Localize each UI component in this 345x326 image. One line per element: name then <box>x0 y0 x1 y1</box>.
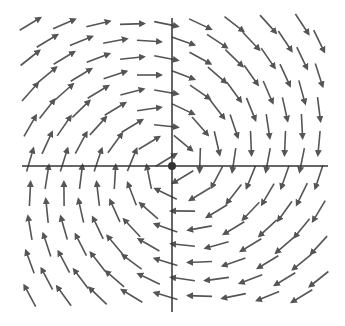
field-arrow <box>295 14 308 34</box>
field-arrow <box>139 239 160 251</box>
field-arrow <box>88 86 109 98</box>
field-arrow <box>139 137 160 149</box>
field-arrow <box>155 189 177 200</box>
field-arrow <box>240 275 262 284</box>
field-arrow <box>211 166 222 187</box>
field-arrow <box>282 97 287 120</box>
field-arrow <box>103 39 127 43</box>
field-arrow <box>225 17 244 32</box>
field-arrow <box>188 226 212 230</box>
field-arrow <box>205 242 228 248</box>
field-arrow <box>222 294 246 299</box>
field-arrow <box>43 234 51 257</box>
field-arrow <box>27 149 34 172</box>
field-arrow <box>120 57 144 60</box>
field-arrow <box>104 71 127 78</box>
field-arrow <box>38 67 56 82</box>
field-arrow <box>281 166 289 189</box>
field-arrow <box>258 256 279 268</box>
field-arrow <box>188 262 212 263</box>
field-arrow <box>310 272 329 287</box>
field-arrow <box>292 290 313 302</box>
field-arrow <box>89 288 106 305</box>
field-arrow <box>54 52 75 64</box>
field-arrow <box>55 84 73 100</box>
field-arrow <box>262 184 274 205</box>
field-arrow <box>75 132 86 153</box>
field-arrow <box>147 165 152 189</box>
field-arrow <box>91 253 106 272</box>
field-arrow <box>127 149 136 171</box>
field-arrow <box>230 115 238 138</box>
field-arrow <box>154 56 178 61</box>
field-arrow <box>29 182 30 206</box>
field-arrow <box>122 290 143 302</box>
field-arrow <box>41 268 52 289</box>
field-arrow <box>311 236 327 254</box>
field-arrow <box>200 148 201 172</box>
field-arrow <box>22 83 38 101</box>
field-arrow <box>313 201 325 222</box>
field-arrow <box>108 133 122 152</box>
field-arrow <box>243 32 260 49</box>
field-arrow <box>294 219 309 238</box>
field-arrow <box>260 15 276 33</box>
field-arrow <box>76 234 87 255</box>
field-arrow <box>70 37 92 46</box>
field-arrow <box>93 217 103 239</box>
field-arrow <box>261 48 275 68</box>
field-arrow <box>300 148 305 172</box>
field-arrow <box>21 51 40 66</box>
field-arrow <box>40 100 55 119</box>
field-arrow <box>61 217 68 240</box>
field-arrow <box>189 19 211 29</box>
field-arrow <box>243 202 260 219</box>
field-arrow <box>155 258 178 265</box>
field-arrow <box>124 219 140 237</box>
field-arrow <box>278 201 292 220</box>
field-arrow <box>42 132 52 154</box>
field-arrow <box>285 131 286 155</box>
field-arrow <box>172 104 194 114</box>
field-arrow <box>154 125 178 127</box>
field-arrow <box>110 200 120 222</box>
field-arrow <box>232 148 236 172</box>
field-arrow <box>122 120 143 132</box>
field-arrow <box>137 40 161 42</box>
field-arrow <box>122 255 141 269</box>
field-arrow <box>224 222 245 234</box>
field-arrow <box>128 183 137 205</box>
field-arrow <box>301 114 302 138</box>
field-arrow <box>172 37 195 45</box>
field-arrow <box>37 35 58 47</box>
field-arrow <box>227 185 242 204</box>
field-arrow <box>266 148 270 172</box>
field-arrow <box>172 71 194 80</box>
field-arrow <box>275 273 296 285</box>
field-arrow <box>28 216 32 240</box>
field-arrow <box>120 24 144 25</box>
field-arrow <box>244 65 258 85</box>
field-arrow <box>247 98 256 120</box>
field-arrow <box>293 254 312 269</box>
field-arrow <box>87 54 109 62</box>
field-arrow <box>318 97 321 121</box>
field-arrow <box>207 205 228 217</box>
field-arrow <box>174 135 192 150</box>
field-arrow <box>58 251 69 272</box>
field-arrow <box>247 166 256 188</box>
field-arrow <box>314 30 325 52</box>
field-arrow <box>155 224 178 232</box>
field-arrow <box>114 165 115 189</box>
field-arrow <box>297 183 308 205</box>
field-arrow <box>45 165 49 189</box>
field-arrow <box>297 47 307 69</box>
field-arrow <box>318 131 320 155</box>
field-arrow <box>190 188 211 200</box>
field-arrow <box>263 81 273 103</box>
field-arrow <box>278 31 291 51</box>
origin-dot <box>168 162 176 170</box>
field-arrow <box>90 117 106 135</box>
field-arrow <box>190 85 210 99</box>
field-arrow <box>107 236 122 254</box>
